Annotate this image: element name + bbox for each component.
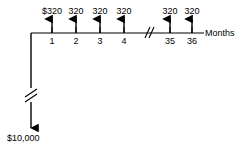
period-label-2: 2 xyxy=(73,36,78,46)
inflow-amount-2: 320 xyxy=(68,6,83,16)
period-ticks xyxy=(52,27,192,33)
period-label-3: 3 xyxy=(97,36,102,46)
inflow-amount-3: 320 xyxy=(92,6,107,16)
period-label-4: 4 xyxy=(121,36,126,46)
period-label-1: 1 xyxy=(49,36,54,46)
diagram-canvas xyxy=(0,0,248,149)
cash-flow-diagram: $320 320 320 320 320 320 1 2 3 4 35 36 M… xyxy=(0,0,248,149)
outflow-amount-label: $10,000 xyxy=(7,133,40,143)
inflow-amount-36: 320 xyxy=(184,6,199,16)
period-label-35: 35 xyxy=(165,36,175,46)
axis-title-months: Months xyxy=(205,28,235,38)
period-label-36: 36 xyxy=(187,36,197,46)
inflow-amount-1: $320 xyxy=(42,6,62,16)
outflow-break-icon xyxy=(25,88,37,102)
inflow-arrows xyxy=(52,19,192,33)
inflow-amount-4: 320 xyxy=(116,6,131,16)
inflow-amount-35: 320 xyxy=(162,6,177,16)
